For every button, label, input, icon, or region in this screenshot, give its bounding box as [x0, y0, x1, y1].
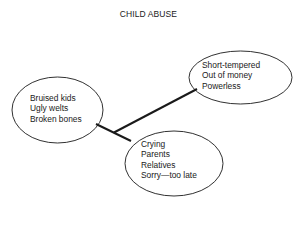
right-node-text: Short-tempered Out of money Powerless — [202, 60, 260, 91]
left-node-line: Bruised kids — [30, 93, 82, 103]
bottom-node-line: Parents — [141, 149, 197, 159]
right-node-line: Out of money — [202, 70, 260, 80]
left-node-line: Broken bones — [30, 114, 82, 124]
bottom-node-line: Sorry—too late — [141, 170, 197, 180]
bottom-node-line: Relatives — [141, 160, 197, 170]
bottom-node-text: Crying Parents Relatives Sorry—too late — [141, 139, 197, 180]
left-node-line: Ugly welts — [30, 103, 82, 113]
connector-junction-to-right — [114, 89, 197, 133]
right-node-line: Powerless — [202, 81, 260, 91]
bottom-node-line: Crying — [141, 139, 197, 149]
right-node-line: Short-tempered — [202, 60, 260, 70]
left-node-text: Bruised kids Ugly welts Broken bones — [30, 93, 82, 124]
